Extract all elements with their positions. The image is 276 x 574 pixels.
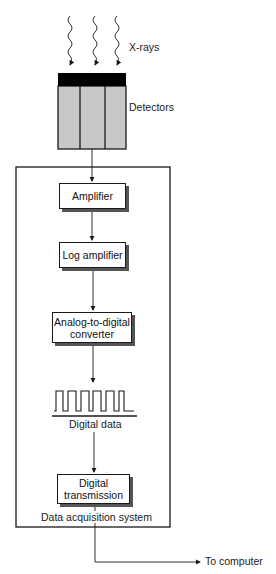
log-amplifier-box: Log amplifier bbox=[59, 242, 126, 268]
xrays-label: X-rays bbox=[129, 41, 159, 53]
adc-label-line1: Analog-to-digital bbox=[54, 316, 130, 328]
adc-box: Analog-to-digital converter bbox=[52, 312, 132, 343]
amplifier-label: Amplifier bbox=[72, 190, 113, 202]
digital-data-label: Digital data bbox=[69, 418, 122, 430]
digital-transmission-line2: transmission bbox=[64, 489, 123, 501]
digital-transmission-line1: Digital bbox=[79, 477, 108, 489]
diagram-canvas bbox=[0, 0, 276, 574]
to-computer-label: To computer bbox=[205, 555, 263, 567]
amplifier-box: Amplifier bbox=[59, 183, 126, 209]
digital-pulse-icon bbox=[52, 391, 137, 416]
detector-array bbox=[58, 73, 126, 149]
adc-label-line2: converter bbox=[70, 328, 114, 340]
data-acquisition-system-label: Data acquisition system bbox=[40, 511, 153, 523]
detectors-label: Detectors bbox=[129, 101, 174, 113]
digital-transmission-box: Digital transmission bbox=[57, 474, 130, 504]
log-amplifier-label: Log amplifier bbox=[62, 249, 122, 261]
xray-wave-icons bbox=[68, 16, 119, 65]
